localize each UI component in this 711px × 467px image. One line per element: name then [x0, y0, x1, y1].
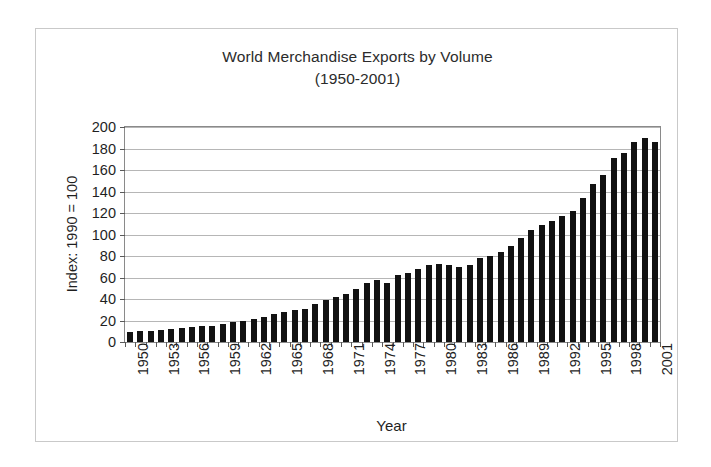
x-axis-tick-label: 1995	[598, 343, 614, 375]
bar	[127, 332, 133, 342]
bar	[353, 289, 359, 342]
y-axis-title: Index: 1990 = 100	[62, 126, 82, 341]
x-axis-tick-label: 1971	[351, 343, 367, 375]
y-axis-tick-label: 60	[100, 270, 116, 286]
plot-area: 020406080100120140160180200	[124, 126, 661, 343]
bar-series	[125, 127, 660, 342]
chart-title-line1: World Merchandise Exports by Volume	[222, 48, 492, 65]
x-axis-tick-label: 1968	[320, 343, 336, 375]
bar	[487, 256, 493, 342]
bar	[590, 184, 596, 342]
x-axis-tick-label: 1956	[196, 343, 212, 375]
x-axis-labels: 1950195319561959196219651968197119741977…	[124, 343, 661, 403]
bar	[436, 264, 442, 342]
x-axis-tick-label: 2001	[659, 343, 675, 375]
bar	[652, 142, 658, 342]
y-axis-tick-label: 200	[92, 119, 116, 135]
chart-title: World Merchandise Exports by Volume (195…	[36, 46, 679, 91]
y-axis-tick-label: 0	[108, 334, 116, 350]
bar	[621, 153, 627, 342]
bar	[220, 324, 226, 342]
figure-border: World Merchandise Exports by Volume (195…	[35, 28, 678, 442]
bar	[549, 221, 555, 342]
bar	[333, 297, 339, 342]
bar	[467, 265, 473, 342]
bar	[600, 175, 606, 342]
x-axis-tick-label: 1980	[443, 343, 459, 375]
bar	[230, 322, 236, 342]
bar	[498, 252, 504, 342]
x-axis-tick-label: 1950	[135, 343, 151, 375]
y-axis-tick-label: 160	[92, 162, 116, 178]
bar	[240, 321, 246, 343]
bar	[518, 238, 524, 342]
bar	[302, 309, 308, 342]
bar	[395, 275, 401, 342]
bar	[364, 283, 370, 342]
x-axis-tick-label: 1977	[412, 343, 428, 375]
x-axis-tick-label: 1992	[567, 343, 583, 375]
y-axis-tick-label: 120	[92, 205, 116, 221]
bar	[312, 304, 318, 342]
bar	[148, 331, 154, 342]
bar	[179, 328, 185, 342]
bar	[271, 314, 277, 342]
bar	[137, 331, 143, 342]
y-axis-tick-label: 140	[92, 184, 116, 200]
bar	[642, 138, 648, 342]
bar	[477, 258, 483, 342]
y-axis-tick-label: 20	[100, 313, 116, 329]
bar	[570, 211, 576, 342]
bar	[384, 283, 390, 342]
bar	[374, 280, 380, 342]
bar	[580, 198, 586, 342]
bar	[251, 319, 257, 342]
bar	[539, 225, 545, 342]
bar	[611, 158, 617, 342]
bar	[323, 300, 329, 342]
y-axis-tick-label: 80	[100, 248, 116, 264]
bar	[199, 326, 205, 342]
bar	[426, 265, 432, 342]
y-axis-tick-label: 100	[92, 227, 116, 243]
bar	[292, 310, 298, 342]
x-axis-tick-label: 1962	[258, 343, 274, 375]
bar	[343, 294, 349, 342]
x-axis-tick-label: 1986	[505, 343, 521, 375]
x-axis-tick-label: 1998	[628, 343, 644, 375]
bar	[158, 330, 164, 342]
bar	[261, 317, 267, 342]
bar	[456, 267, 462, 342]
x-axis-tick-label: 1983	[474, 343, 490, 375]
x-axis-title: Year	[124, 417, 659, 434]
y-axis-tick-label: 180	[92, 141, 116, 157]
bar	[631, 142, 637, 342]
bar	[415, 269, 421, 342]
bar	[281, 312, 287, 342]
bar	[209, 326, 215, 342]
bar	[446, 265, 452, 342]
x-axis-tick-label: 1959	[227, 343, 243, 375]
bar	[168, 329, 174, 342]
bar	[508, 246, 514, 342]
x-axis-tick-label: 1953	[166, 343, 182, 375]
x-axis-tick-label: 1989	[536, 343, 552, 375]
bar	[528, 230, 534, 342]
x-axis-tick-label: 1974	[382, 343, 398, 375]
chart-title-line2: (1950-2001)	[36, 68, 679, 90]
bar	[189, 327, 195, 342]
bar	[405, 273, 411, 342]
y-axis-tick-label: 40	[100, 291, 116, 307]
x-axis-tick-label: 1965	[289, 343, 305, 375]
bar	[559, 216, 565, 342]
